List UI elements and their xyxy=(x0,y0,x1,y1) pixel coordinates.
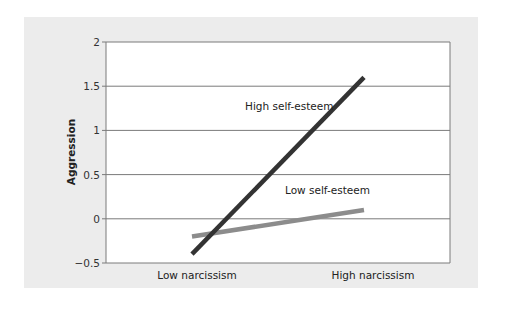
annotation-low-self-esteem: Low self-esteem xyxy=(285,184,370,196)
y-tick-label: 1 xyxy=(93,124,100,136)
x-tick-label: High narcissism xyxy=(332,269,415,281)
x-tick-label: Low narcissism xyxy=(157,269,236,281)
y-axis-ticks: −0.500.511.52 xyxy=(75,36,101,269)
annotation-high-self-esteem: High self-esteem xyxy=(245,100,333,112)
y-axis-label: Aggression xyxy=(65,119,77,185)
line-chart: −0.500.511.52 Low narcissismHigh narciss… xyxy=(0,0,514,309)
y-tick-label: −0.5 xyxy=(75,257,101,269)
y-tick-label: 2 xyxy=(93,36,100,48)
y-tick-label: 0.5 xyxy=(83,169,100,181)
plot-area xyxy=(106,42,450,263)
y-tick-label: 0 xyxy=(93,213,100,225)
x-axis-tick-labels: Low narcissismHigh narcissism xyxy=(157,269,414,281)
y-tick-label: 1.5 xyxy=(83,80,100,92)
